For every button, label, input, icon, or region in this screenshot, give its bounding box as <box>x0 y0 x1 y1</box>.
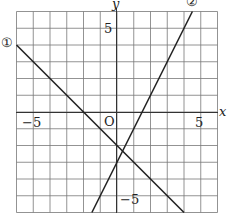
y-tick-pos5: 5 <box>104 21 112 36</box>
origin-label: O <box>104 114 115 129</box>
coordinate-graph: x y O −5 5 5 −5 ① ② <box>0 0 229 216</box>
y-tick-neg5: −5 <box>120 192 139 207</box>
line-2-label: ② <box>186 0 198 9</box>
y-axis-label: y <box>111 0 120 11</box>
x-tick-pos5: 5 <box>195 115 203 130</box>
x-axis-label: x <box>219 104 227 119</box>
line-1-label: ① <box>1 35 13 50</box>
x-tick-neg5: −5 <box>22 115 41 130</box>
